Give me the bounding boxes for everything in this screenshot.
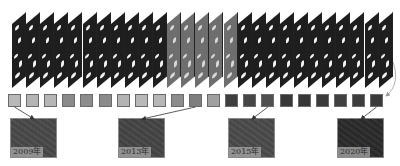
bright-spot	[382, 24, 386, 31]
bright-spot	[328, 36, 331, 44]
bright-spot	[227, 71, 232, 79]
bright-spot	[245, 60, 248, 69]
bright-spot	[338, 53, 342, 59]
bright-spot	[211, 53, 215, 59]
bright-spot	[127, 53, 131, 59]
diagram-canvas: 2009年 2013年 2015年 2020年	[0, 0, 400, 166]
image-frame	[322, 12, 336, 88]
bright-spot	[103, 36, 106, 44]
bright-spot	[57, 24, 61, 31]
bright-spot	[201, 36, 204, 44]
bright-spot	[272, 36, 275, 44]
summary-square	[316, 94, 329, 107]
image-frame	[68, 12, 82, 88]
bright-spot	[86, 24, 90, 31]
thumbnail-2020: 2020年	[337, 118, 384, 158]
image-frame	[54, 12, 68, 88]
summary-square	[99, 94, 112, 107]
bright-spot	[28, 53, 32, 59]
bright-spot	[255, 24, 259, 31]
image-frame	[40, 12, 54, 88]
bright-spot	[18, 36, 21, 44]
bright-spot	[89, 36, 92, 44]
image-frame	[379, 12, 393, 88]
bright-spot	[128, 71, 133, 79]
image-frame	[365, 12, 379, 88]
bright-spot	[385, 36, 388, 44]
image-frame	[252, 12, 266, 88]
bright-spot	[142, 24, 146, 31]
bright-spot	[339, 24, 343, 31]
bright-spot	[367, 53, 371, 59]
bright-spot	[353, 71, 358, 79]
bright-spot	[339, 71, 344, 79]
bright-spot	[160, 60, 163, 69]
bright-spot	[75, 60, 78, 69]
bright-spot	[329, 60, 332, 69]
bright-spot	[342, 36, 345, 44]
bright-spot	[259, 60, 262, 69]
thumbnail-label: 2013年	[119, 147, 151, 157]
bright-spot	[198, 24, 202, 31]
bright-spot	[104, 60, 107, 69]
bright-spot	[357, 60, 360, 69]
bright-spot	[202, 60, 205, 69]
bright-spot	[15, 71, 20, 79]
bright-spot	[197, 53, 201, 59]
image-frame	[308, 12, 322, 88]
bright-spot	[113, 53, 117, 59]
bright-spot	[282, 53, 286, 59]
bright-spot	[314, 36, 317, 44]
bright-spot	[118, 60, 121, 69]
bright-spot	[100, 71, 105, 79]
summary-square	[135, 94, 148, 107]
bright-spot	[99, 53, 103, 59]
bright-spot	[269, 24, 273, 31]
bright-spot	[240, 53, 244, 59]
bright-spot	[173, 36, 176, 44]
bright-spot	[382, 71, 387, 79]
image-frame	[224, 12, 238, 88]
bright-spot	[356, 36, 359, 44]
bright-spot	[212, 24, 216, 31]
image-frame	[125, 12, 139, 88]
bright-spot	[301, 60, 304, 69]
bright-spot	[258, 36, 261, 44]
image-frame	[26, 12, 40, 88]
bright-spot	[183, 53, 187, 59]
summary-square	[189, 94, 202, 107]
bright-spot	[74, 36, 77, 44]
bright-spot	[71, 24, 75, 31]
bright-spot	[255, 71, 260, 79]
bright-spot	[156, 71, 161, 79]
bright-spot	[14, 53, 18, 59]
thumbnail-label: 2015年	[229, 147, 261, 157]
bright-spot	[145, 36, 148, 44]
image-frame	[209, 12, 223, 88]
bright-spot	[381, 53, 385, 59]
summary-square	[280, 94, 293, 107]
bright-spot	[325, 71, 330, 79]
bright-spot	[90, 60, 93, 69]
summary-square	[207, 94, 220, 107]
bright-spot	[227, 24, 231, 31]
image-frame	[280, 12, 294, 88]
bright-spot	[114, 24, 118, 31]
bright-spot	[43, 71, 48, 79]
image-frame	[266, 12, 280, 88]
summary-square	[8, 94, 21, 107]
bright-spot	[146, 60, 149, 69]
bright-spot	[283, 24, 287, 31]
image-frame	[238, 12, 252, 88]
bright-spot	[70, 53, 74, 59]
bright-spot	[241, 71, 246, 79]
bright-spot	[343, 60, 346, 69]
summary-square	[44, 94, 57, 107]
bright-spot	[212, 71, 217, 79]
bright-spot	[226, 53, 230, 59]
summary-square	[171, 94, 184, 107]
image-frame	[111, 12, 125, 88]
bright-spot	[325, 24, 329, 31]
bright-spot	[244, 36, 247, 44]
summary-square	[117, 94, 130, 107]
